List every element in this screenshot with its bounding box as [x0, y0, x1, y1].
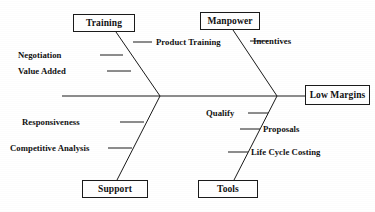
- cause-label-support-0[interactable]: Responsiveness: [22, 117, 80, 127]
- cause-label-training-1[interactable]: Negotiation: [18, 50, 62, 60]
- category-box-manpower[interactable]: Manpower: [200, 12, 260, 30]
- category-box-support[interactable]: Support: [82, 180, 148, 198]
- fishbone-diagram: Training Manpower Support Tools Low Marg…: [0, 0, 375, 212]
- cause-label-manpower-0[interactable]: Incentives: [253, 36, 291, 46]
- effect-label: Low Margins: [310, 90, 366, 100]
- cause-label-tools-2[interactable]: Life Cycle Costing: [251, 147, 320, 157]
- category-label-tools: Tools: [217, 184, 239, 194]
- bone-line-tools: [234, 96, 277, 180]
- diagram-lines: [0, 0, 375, 212]
- effect-box-low-margins[interactable]: Low Margins: [305, 85, 370, 105]
- category-box-training[interactable]: Training: [73, 14, 135, 32]
- cause-label-tools-0[interactable]: Qualify: [206, 108, 234, 118]
- category-label-support: Support: [98, 184, 132, 194]
- cause-label-tools-1[interactable]: Proposals: [263, 124, 300, 134]
- cause-label-training-0[interactable]: Product Training: [156, 37, 221, 47]
- category-box-tools[interactable]: Tools: [198, 180, 258, 198]
- cause-label-support-1[interactable]: Competitive Analysis: [10, 143, 89, 153]
- cause-label-training-2[interactable]: Value Added: [18, 66, 66, 76]
- category-label-training: Training: [86, 18, 122, 28]
- bone-line-support: [117, 96, 160, 180]
- category-label-manpower: Manpower: [207, 16, 252, 26]
